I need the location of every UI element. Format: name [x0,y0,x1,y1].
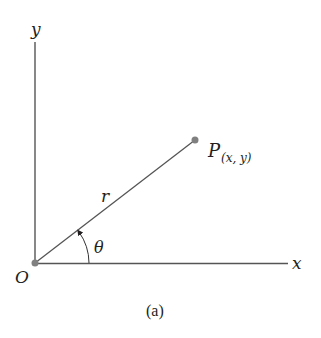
radius-label: r [101,186,110,206]
angle-arc [79,232,89,263]
radius-line [35,140,195,263]
x-axis-label: x [292,253,302,273]
angle-label: θ [94,238,104,257]
point-coords-label: (x, y) [221,151,252,165]
polar-coordinate-diagram: y x O r θ P (x, y) (a) [0,0,321,338]
figure-caption: (a) [146,302,164,320]
origin-dot [32,260,39,267]
origin-label: O [15,267,29,287]
y-axis-label: y [30,19,41,39]
point-name-label: P [207,140,221,161]
point-p-dot [192,137,199,144]
